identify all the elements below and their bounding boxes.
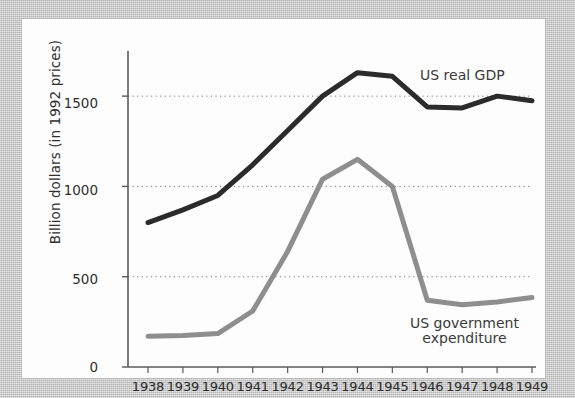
series-line-us-real-gdp (148, 73, 532, 223)
x-axis-tick-labels: 1938193919401941194219431944194519461947… (106, 379, 536, 398)
y-tick-label-0: 0 (52, 359, 98, 375)
y-tick-label-1500: 1500 (52, 95, 98, 111)
series-annotation-us-real-gdp: US real GDP (420, 68, 505, 84)
series-annotation-line-1: US government (410, 316, 519, 331)
y-tick-label-500: 500 (52, 271, 98, 287)
series-line-us-government-expenditure (148, 159, 532, 336)
series-annotation-line-2: expenditure (410, 331, 519, 346)
y-axis-tick-labels: 1500 1000 500 0 (52, 51, 98, 373)
x-tick-label-1949: 1949 (510, 379, 554, 394)
page-background: Billion dollars (in 1992 prices) 1500 10… (0, 0, 575, 398)
x-axis-ticks (148, 367, 532, 373)
gridlines (128, 96, 532, 277)
y-axis-ticks (122, 96, 128, 367)
figure-card: Billion dollars (in 1992 prices) 1500 10… (22, 19, 545, 378)
series-annotation-us-government-expenditure: US government expenditure (410, 316, 519, 346)
y-tick-label-1000: 1000 (52, 182, 98, 198)
